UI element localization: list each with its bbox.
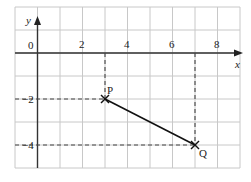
- x-axis-label: x: [234, 58, 240, 70]
- y-axis-label: y: [25, 14, 31, 26]
- tick-x-2: 2: [79, 38, 85, 50]
- grid: [15, 7, 240, 168]
- point-p-label: P: [107, 84, 113, 96]
- tick-x-6: 6: [169, 38, 175, 50]
- x-axis-arrow-icon: [234, 50, 243, 57]
- tick-y-minus-4: −4: [22, 139, 34, 151]
- origin-label: 0: [28, 39, 34, 51]
- tick-x-8: 8: [214, 38, 220, 50]
- coordinate-diagram: y x 0 2 4 6 8 −2 −4 P Q: [0, 0, 251, 182]
- tick-y-minus-2: −2: [22, 93, 34, 105]
- point-q-label: Q: [199, 147, 207, 159]
- tick-x-4: 4: [124, 38, 130, 50]
- y-axis-arrow-icon: [34, 16, 41, 25]
